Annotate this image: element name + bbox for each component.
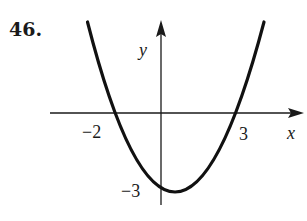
tick-label-neg2: −2 [82, 122, 101, 142]
x-axis-label: x [286, 123, 295, 143]
tick-label-neg3: −3 [121, 181, 140, 201]
parabola-curve [88, 22, 265, 192]
tick-label-3: 3 [239, 124, 248, 144]
y-axis-label: y [137, 40, 147, 60]
parabola-graph: y x −2 3 −3 [0, 0, 307, 221]
